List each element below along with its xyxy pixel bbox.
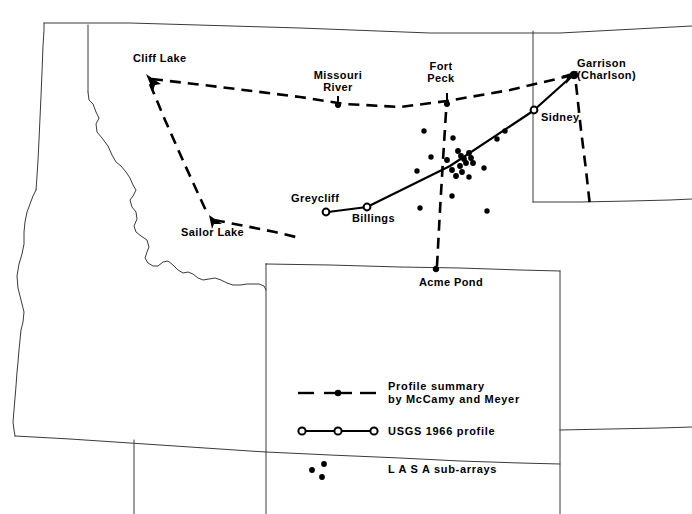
legend-row-profile-summary: Profile summary by McCamy and Meyer: [296, 378, 520, 408]
label-fort-peck-line1: Fort: [427, 60, 454, 72]
legend-symbol-usgs-line: [296, 416, 388, 446]
legend-text-usgs: USGS 1966 profile: [388, 425, 495, 438]
legend-symbol-lasa-dots: [296, 454, 388, 484]
legend-row-lasa: L A S A sub-arrays: [296, 454, 520, 484]
label-billings: Billings: [352, 212, 395, 224]
label-sailor-lake: Sailor Lake: [181, 226, 244, 238]
sidney-node: [531, 107, 538, 114]
border-wyoming-north: [266, 264, 560, 271]
border-northdakota-southdakota: [533, 199, 692, 202]
legend: Profile summary by McCamy and Meyer USGS…: [296, 378, 520, 492]
label-greycliff: Greycliff: [291, 192, 339, 204]
fort-peck-dot: [444, 101, 449, 106]
dashed-cliff-sailor-branch: [150, 84, 207, 213]
cliff-lake-arrowhead: [146, 74, 161, 91]
dashed-garrison-south-branch: [576, 84, 590, 206]
border-oregon-south: [15, 436, 266, 452]
label-garrison-line2: (Charlson): [577, 69, 636, 81]
label-missouri-river-line1: Missouri: [314, 69, 362, 81]
legend-profile-summary-line1: Profile summary: [388, 380, 520, 393]
label-missouri-river-line2: River: [314, 81, 362, 93]
label-sidney: Sidney: [541, 111, 579, 123]
label-fort-peck-line2: Peck: [427, 72, 454, 84]
legend-symbol-dashed-line: [296, 378, 388, 408]
legend-lasa-line1: L A S A sub-arrays: [388, 463, 497, 476]
label-acme-pond: Acme Pond: [419, 276, 483, 288]
usgs-profile-line: [328, 76, 572, 212]
label-missouri-river: Missouri River: [314, 69, 362, 93]
greycliff-node: [323, 209, 330, 216]
legend-usgs-line1: USGS 1966 profile: [388, 425, 495, 438]
profile-summary-route: [146, 74, 590, 272]
border-southdakota-nebraska: [560, 427, 692, 430]
legend-text-profile-summary: Profile summary by McCamy and Meyer: [388, 380, 520, 406]
acme-pond-dot: [433, 266, 439, 272]
map-figure: Cliff Lake Missouri River Fort Peck Garr…: [0, 0, 692, 514]
label-garrison: Garrison (Charlson): [577, 57, 636, 81]
legend-profile-summary-line2: by McCamy and Meyer: [388, 393, 520, 406]
border-washington: [36, 23, 44, 190]
label-cliff-lake: Cliff Lake: [133, 52, 187, 64]
lasa-subarray-dots: [414, 128, 507, 213]
border-west-coast: [13, 190, 36, 436]
legend-text-lasa: L A S A sub-arrays: [388, 463, 497, 476]
billings-node: [364, 204, 371, 211]
dashed-fortpeck-acmepond-branch: [437, 112, 446, 266]
legend-row-usgs: USGS 1966 profile: [296, 416, 520, 446]
label-garrison-line1: Garrison: [577, 57, 636, 69]
label-fort-peck: Fort Peck: [427, 60, 454, 84]
border-canada-us: [44, 23, 692, 33]
missouri-river-dot: [335, 102, 340, 107]
border-idaho-montana: [88, 92, 266, 290]
